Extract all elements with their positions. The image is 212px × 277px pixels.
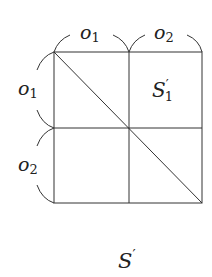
brace-left-top-b (37, 110, 54, 128)
brace-left-bottom-a (37, 128, 54, 146)
label-top-o2: o2 (154, 21, 174, 45)
partition-diagram: o1 o2 o1 o2 S′1 S′ (0, 0, 212, 277)
caption-s-prime: S′ (118, 247, 136, 273)
label-left-o2: o2 (18, 153, 38, 177)
brace-left-bottom-b (37, 185, 54, 203)
label-top-o1: o1 (80, 21, 100, 45)
brace-top-right-b (187, 35, 202, 52)
brace-top-left-b (113, 35, 129, 52)
brace-top-left-a (54, 35, 70, 52)
label-left-o1: o1 (18, 77, 38, 101)
brace-top-right-a (129, 35, 145, 52)
label-cell-s1-prime: S′1 (152, 77, 173, 104)
brace-left-top-a (37, 52, 54, 70)
